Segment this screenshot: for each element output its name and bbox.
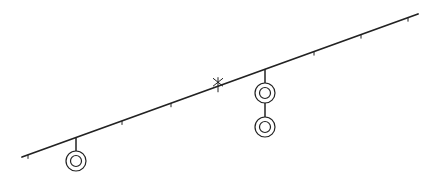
hanging-rings	[66, 69, 275, 171]
hanger	[66, 138, 86, 172]
cross-marker-icon	[213, 77, 223, 92]
diagram-canvas	[0, 0, 441, 184]
inner-ring-icon	[71, 156, 82, 167]
inner-ring-icon	[260, 88, 271, 99]
hanger	[255, 69, 275, 137]
inner-ring-icon	[260, 122, 271, 133]
main-line	[22, 14, 418, 157]
